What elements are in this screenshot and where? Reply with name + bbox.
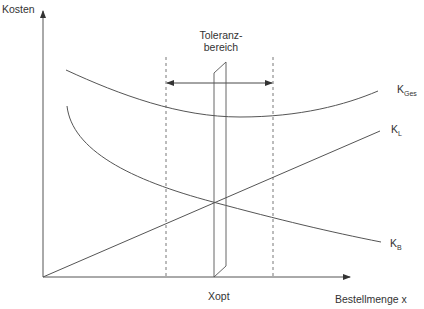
legend-k-ges: KGes — [397, 83, 417, 95]
legend-k-b-sub: B — [397, 244, 402, 251]
legend-k-b-main: K — [390, 237, 397, 249]
xopt-plane — [214, 62, 226, 277]
y-axis-label: Kosten — [2, 3, 35, 15]
legend-k-ges-sub: Ges — [404, 90, 417, 97]
legend-k-b: KB — [390, 237, 402, 249]
legend-k-l-sub: L — [398, 130, 402, 137]
xopt-label: Xopt — [208, 290, 230, 302]
k-b-curve — [67, 106, 381, 242]
x-axis-label: Bestellmenge x — [335, 293, 407, 305]
tolerance-label-line1: Toleranz- — [196, 29, 246, 41]
tolerance-label: Toleranz- bereich — [196, 29, 246, 53]
tolerance-label-line2: bereich — [196, 41, 246, 53]
k-ges-curve — [66, 70, 378, 117]
legend-k-ges-main: K — [397, 83, 404, 95]
legend-k-l: KL — [391, 123, 402, 135]
k-l-line — [43, 131, 380, 277]
legend-k-l-main: K — [391, 123, 398, 135]
